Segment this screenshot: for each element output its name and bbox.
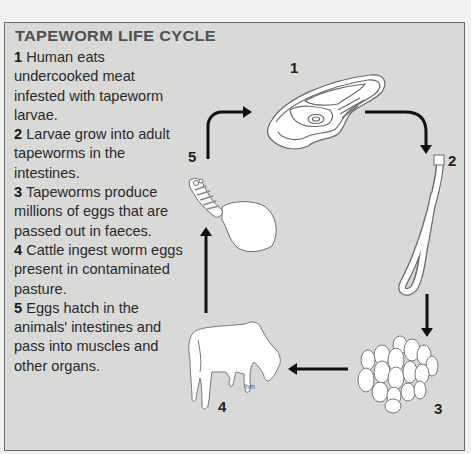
larva-cyst-icon [189,178,276,251]
stage-label-3: 3 [434,400,442,417]
arrow-5-to-1 [208,112,244,159]
tapeworm-icon [402,155,444,292]
arrowhead-icon [200,227,212,236]
arrow-1-to-2 [365,112,426,146]
artist-signature: hm [245,383,255,390]
stage-label-4: 4 [218,398,227,415]
stage-label-5: 5 [188,148,196,165]
arrowhead-icon [243,106,252,118]
stage-label-1: 1 [290,59,298,76]
arrowhead-icon [288,363,297,375]
stage-label-2: 2 [448,152,456,169]
cow-icon [189,322,281,409]
life-cycle-diagram: 1 2 3 hm 4 [0,0,471,454]
arrowhead-icon [421,328,433,337]
egg-cluster-icon [358,336,438,413]
arrowhead-icon [420,145,432,154]
